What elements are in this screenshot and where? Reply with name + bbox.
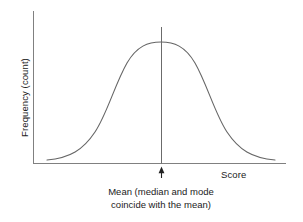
mean-caption-line-1: Mean (median and mode [28,185,294,198]
mean-caption-line-2: coincide with the mean) [28,198,294,211]
figure-container: Frequency (count) Score Mean (median and… [0,0,303,222]
y-axis-label: Frequency (count) [19,38,30,158]
mean-caption: Mean (median and mode coincide with the … [28,185,294,211]
mean-up-arrow-icon [159,167,165,179]
x-axis-label: Score [221,169,246,180]
